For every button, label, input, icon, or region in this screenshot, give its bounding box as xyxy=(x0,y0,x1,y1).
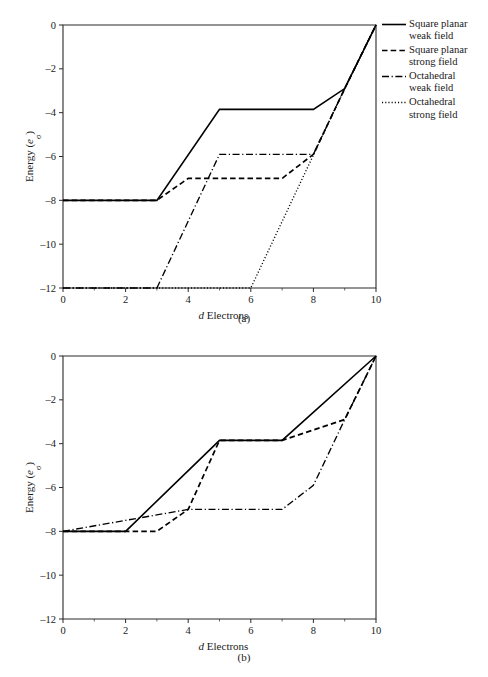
legend-label: Octahedralstrong field xyxy=(409,96,488,121)
y-tick-label: –10 xyxy=(39,239,56,250)
y-tick-label: 0 xyxy=(51,351,56,362)
series-line xyxy=(63,25,376,288)
chart-b: 0–2–4–6–8–10–120246810d ElectronsEnergy … xyxy=(0,338,488,677)
legend-line-sample-dashdot xyxy=(382,70,406,82)
panel-label-a: (a) xyxy=(0,312,488,324)
series-line xyxy=(63,25,376,288)
figure-panel-a: 0–2–4–6–8–10–120246810d ElectronsEnergy … xyxy=(0,0,488,338)
y-tick-label: –4 xyxy=(45,438,57,449)
legend-swatch-solid xyxy=(382,18,406,30)
y-tick-label: –4 xyxy=(45,107,57,118)
x-tick-label: 10 xyxy=(371,625,382,636)
legend-label-line1: Square planar xyxy=(409,44,468,55)
legend-entry: Square planarstrong field xyxy=(382,44,488,69)
legend-swatch-dashdot xyxy=(382,70,406,82)
x-tick-label: 4 xyxy=(186,625,192,636)
y-axis-title: Energy (eσ) xyxy=(23,462,42,513)
legend-label-line2: weak field xyxy=(409,30,488,42)
legend-line-sample-dotted xyxy=(382,96,406,108)
x-tick-label: 0 xyxy=(60,625,65,636)
x-tick-label: 6 xyxy=(248,294,253,305)
plot-frame xyxy=(63,25,376,288)
series-line xyxy=(63,356,376,531)
y-tick-label: –8 xyxy=(45,195,57,206)
plot-frame xyxy=(63,356,376,619)
y-tick-label: –2 xyxy=(45,394,57,405)
y-tick-label: –12 xyxy=(39,283,56,294)
legend-line-sample-solid xyxy=(382,18,406,30)
x-tick-label: 8 xyxy=(311,294,316,305)
figure-panel-b: 0–2–4–6–8–10–120246810d ElectronsEnergy … xyxy=(0,338,488,677)
y-tick-label: –12 xyxy=(39,614,56,625)
legend-label-line1: Square planar xyxy=(409,18,468,29)
legend-line-sample-dashed xyxy=(382,44,406,56)
series-line xyxy=(63,25,376,200)
x-tick-label: 2 xyxy=(123,294,128,305)
series-line xyxy=(63,25,376,200)
legend-label: Square planarstrong field xyxy=(409,44,488,69)
y-tick-label: –6 xyxy=(45,151,57,162)
legend-entry: Octahedralstrong field xyxy=(382,96,488,121)
y-tick-label: –2 xyxy=(45,63,57,74)
legend-swatch-dotted xyxy=(382,96,406,108)
legend-swatch-dashed xyxy=(382,44,406,56)
legend-entry: Octahedralweak field xyxy=(382,70,488,95)
legend-label-line1: Octahedral xyxy=(409,96,455,107)
x-tick-label: 4 xyxy=(186,294,192,305)
legend-label-line2: strong field xyxy=(409,56,488,68)
x-tick-label: 8 xyxy=(311,625,316,636)
legend-label: Square planarweak field xyxy=(409,18,488,43)
y-tick-label: 0 xyxy=(51,20,56,31)
x-tick-label: 2 xyxy=(123,625,128,636)
series-line xyxy=(63,356,376,531)
x-tick-label: 0 xyxy=(60,294,65,305)
y-tick-label: –8 xyxy=(45,526,57,537)
x-tick-label: 10 xyxy=(371,294,382,305)
legend-label: Octahedralweak field xyxy=(409,70,488,95)
legend-label-line1: Octahedral xyxy=(409,70,455,81)
y-tick-label: –6 xyxy=(45,482,57,493)
series-line xyxy=(63,356,376,531)
panel-label-b: (b) xyxy=(0,651,488,663)
legend-a: Square planarweak fieldSquare planarstro… xyxy=(382,18,488,122)
x-tick-label: 6 xyxy=(248,625,253,636)
legend-label-line2: weak field xyxy=(409,82,488,94)
y-axis-title: Energy (eσ) xyxy=(23,131,42,182)
legend-entry: Square planarweak field xyxy=(382,18,488,43)
legend-label-line2: strong field xyxy=(409,109,488,121)
y-tick-label: –10 xyxy=(39,570,56,581)
